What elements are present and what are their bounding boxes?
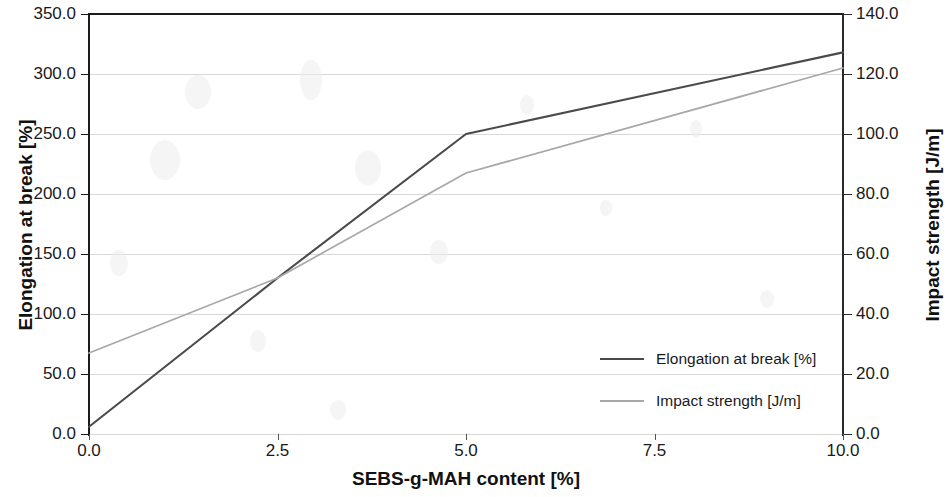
y-axis-left-tick-mark (81, 314, 89, 315)
y-axis-left-tick-label: 200.0 (0, 184, 76, 204)
legend-swatch-impact (600, 400, 644, 402)
y-axis-right-tick-label: 80.0 (856, 184, 932, 204)
scan-speckle (760, 290, 774, 308)
y-axis-right-tick-mark (844, 434, 852, 435)
y-axis-right-tick-mark (844, 254, 852, 255)
legend-label-elongation: Elongation at break [%] (656, 350, 816, 368)
scan-speckle (520, 95, 534, 115)
y-axis-left-tick-label: 250.0 (0, 124, 76, 144)
x-axis-tick-mark (843, 434, 844, 440)
scan-speckle (150, 140, 180, 180)
series-line-impact (89, 68, 843, 353)
y-axis-right-tick-mark (844, 134, 852, 135)
gridline (90, 314, 842, 315)
legend-label-impact: Impact strength [J/m] (656, 392, 801, 410)
legend-item-impact: Impact strength [J/m] (600, 380, 850, 422)
scan-speckle (110, 250, 128, 276)
scan-speckle (250, 330, 266, 352)
y-axis-right-tick-mark (844, 14, 852, 15)
y-axis-right-tick-label: 120.0 (856, 64, 932, 84)
y-axis-left-tick-mark (81, 374, 89, 375)
x-axis-title: SEBS-g-MAH content [%] (88, 468, 844, 490)
scan-speckle (690, 120, 702, 138)
y-axis-left-tick-mark (81, 134, 89, 135)
x-axis-tick-mark (89, 434, 90, 440)
y-axis-right-tick-label: 140.0 (856, 4, 932, 24)
scan-speckle (355, 150, 381, 186)
y-axis-left-tick-mark (81, 254, 89, 255)
gridline (90, 254, 842, 255)
y-axis-right-tick-mark (844, 314, 852, 315)
y-axis-right-tick-mark (844, 74, 852, 75)
scan-speckle (430, 240, 448, 264)
gridline (90, 194, 842, 195)
legend-swatch-elongation (600, 358, 644, 360)
scan-speckle (330, 400, 346, 420)
plot-axis-top-line (88, 13, 844, 15)
y-axis-right-tick-mark (844, 194, 852, 195)
chart-figure: Elongation at break [%] Impact strength … (0, 0, 947, 497)
x-axis-tick-mark (278, 434, 279, 440)
y-axis-left-tick-label: 350.0 (0, 4, 76, 24)
x-axis-tick-label: 2.5 (238, 441, 318, 461)
x-axis-tick-mark (466, 434, 467, 440)
x-axis-tick-label: 0.0 (49, 441, 129, 461)
y-axis-left-tick-mark (81, 194, 89, 195)
y-axis-right-tick-label: 60.0 (856, 244, 932, 264)
y-axis-right-tick-label: 20.0 (856, 364, 932, 384)
scan-speckle (600, 200, 612, 216)
gridline (90, 74, 842, 75)
scan-speckle (300, 60, 322, 100)
x-axis-tick-label: 7.5 (615, 441, 695, 461)
scan-speckle (185, 75, 211, 109)
gridline (90, 134, 842, 135)
y-axis-left-tick-mark (81, 14, 89, 15)
plot-axis-left-line (88, 13, 90, 436)
y-axis-left-tick-mark (81, 74, 89, 75)
y-axis-right-tick-label: 100.0 (856, 124, 932, 144)
x-axis-tick-mark (655, 434, 656, 440)
y-axis-left-tick-label: 100.0 (0, 304, 76, 324)
y-axis-left-tick-mark (81, 434, 89, 435)
y-axis-left-tick-label: 50.0 (0, 364, 76, 384)
x-axis-tick-label: 5.0 (426, 441, 506, 461)
y-axis-right-tick-label: 40.0 (856, 304, 932, 324)
legend-item-elongation: Elongation at break [%] (600, 338, 850, 380)
y-axis-left-tick-label: 300.0 (0, 64, 76, 84)
y-axis-left-tick-label: 150.0 (0, 244, 76, 264)
x-axis-tick-label: 10.0 (803, 441, 883, 461)
chart-legend: Elongation at break [%] Impact strength … (600, 338, 850, 422)
